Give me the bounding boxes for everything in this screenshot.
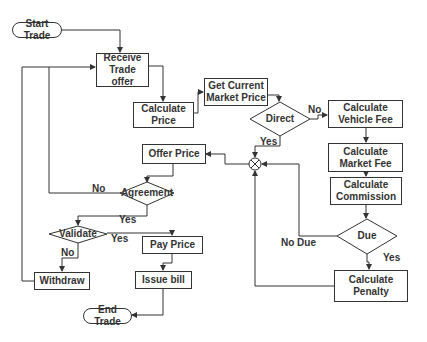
agreement-no-label: No — [92, 183, 105, 194]
calculate-market-fee-box: Calculate Market Fee — [328, 143, 403, 172]
receive-trade-offer-box: Receive Trade offer — [96, 53, 149, 87]
start-trade-terminal: Start Trade — [12, 22, 62, 38]
due-no-label: No Due — [281, 237, 316, 248]
get-market-price-box: Get Current Market Price — [204, 78, 268, 106]
end-trade-terminal: End Trade — [83, 308, 132, 324]
pay-price-box: Pay Price — [142, 236, 203, 254]
calculate-price-box: Calculate Price — [133, 102, 194, 128]
offer-price-box: Offer Price — [142, 144, 206, 164]
agreement-yes-label: Yes — [119, 214, 136, 225]
direct-yes-label: Yes — [260, 136, 277, 147]
due-yes-label: Yes — [383, 252, 400, 263]
issue-bill-box: Issue bill — [135, 271, 192, 289]
withdraw-box: Withdraw — [34, 272, 90, 290]
direct-no-label: No — [308, 104, 321, 115]
calculate-commission-box: Calculate Commission — [330, 177, 402, 205]
direct-label: Direct — [255, 113, 305, 124]
validate-no-label: No — [61, 247, 74, 258]
agreement-label: Agreement — [120, 187, 174, 198]
validate-label: Validate — [51, 228, 105, 239]
calculate-vehicle-fee-box: Calculate Vehicle Fee — [328, 100, 403, 128]
due-label: Due — [342, 230, 392, 241]
calculate-penalty-box: Calculate Penalty — [334, 270, 408, 302]
validate-yes-label: Yes — [111, 233, 128, 244]
